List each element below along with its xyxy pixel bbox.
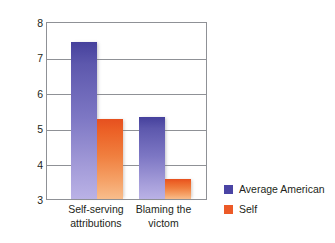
bar-average-american-self-serving <box>71 42 97 199</box>
plot-area <box>46 22 207 200</box>
bar-self-blaming <box>165 179 191 199</box>
x-axis-category-labels: Self-serving attributions Blaming the vi… <box>46 203 207 241</box>
legend-item-average-american: Average American <box>224 181 332 197</box>
legend-label-average-american: Average American <box>239 184 325 195</box>
y-tick-label-5: 5 <box>29 124 43 134</box>
bar-chart: Perceived susceptibility 8 7 6 5 4 3 Sel… <box>0 0 335 243</box>
y-tick-label-8: 8 <box>29 18 43 28</box>
bar-average-american-blaming <box>139 117 165 199</box>
y-tick-label-3: 3 <box>29 195 43 205</box>
chart-legend: Average American Self <box>224 181 332 221</box>
x-category-2-line-2: victom <box>122 217 206 231</box>
y-tick-label-4: 4 <box>29 160 43 170</box>
legend-swatch-self <box>224 205 233 214</box>
bar-self-self-serving <box>97 119 123 199</box>
y-tick-label-6: 6 <box>29 89 43 99</box>
legend-item-self: Self <box>224 201 332 217</box>
x-category-label-2: Blaming the victom <box>122 203 206 230</box>
y-axis-tick-labels: 8 7 6 5 4 3 <box>27 0 43 243</box>
legend-label-self: Self <box>239 204 257 215</box>
legend-swatch-average-american <box>224 185 233 194</box>
y-tick-label-7: 7 <box>29 53 43 63</box>
x-category-2-line-1: Blaming the <box>122 203 206 217</box>
